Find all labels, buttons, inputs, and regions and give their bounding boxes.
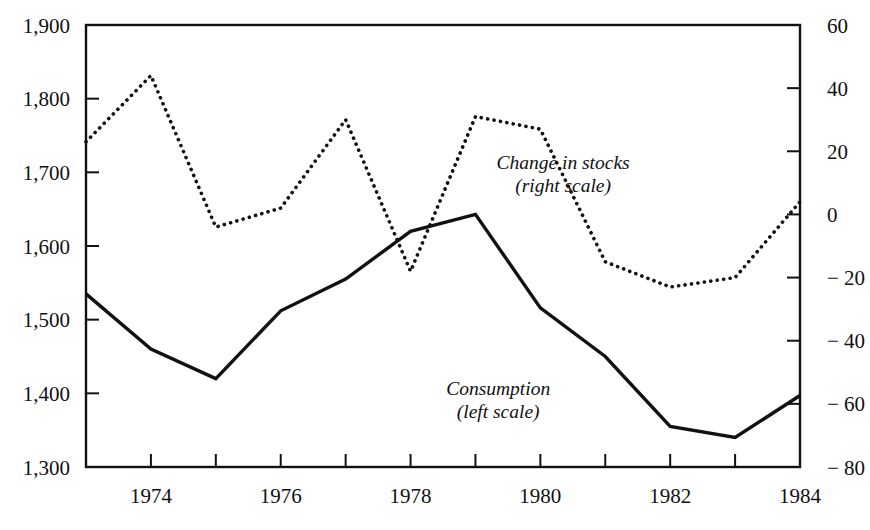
annotation-line-2: (right scale): [515, 175, 611, 197]
left-axis-tick-label: 1,300: [23, 456, 70, 480]
x-axis-tick-label: 1978: [390, 484, 432, 508]
annotation-line-1: Consumption: [446, 378, 550, 399]
left-axis-tick-label: 1,900: [23, 14, 70, 38]
left-axis-tick-label: 1,500: [23, 308, 70, 332]
right-axis-tick-label: 0: [827, 203, 838, 227]
right-axis-tick-label: 20: [827, 140, 848, 164]
dual-axis-line-chart: 1,3001,4001,5001,6001,7001,8001,900 − 80…: [0, 0, 870, 530]
left-axis-tick-label: 1,800: [23, 87, 70, 111]
annotation-line-2: (left scale): [457, 401, 540, 423]
x-axis-tick-label: 1982: [649, 484, 691, 508]
x-axis-tick-label: 1976: [260, 484, 302, 508]
annotation-line-1: Change in stocks: [496, 152, 629, 173]
right-axis-tick-label: − 40: [827, 329, 865, 353]
chart-background: [0, 0, 870, 530]
right-axis-tick-label: − 60: [827, 392, 865, 416]
left-axis-tick-label: 1,400: [23, 382, 70, 406]
right-axis-tick-label: 40: [827, 77, 848, 101]
left-axis-tick-label: 1,700: [23, 161, 70, 185]
x-axis-tick-label: 1984: [779, 484, 822, 508]
right-axis-tick-label: − 20: [827, 266, 865, 290]
annotation-stocks: Change in stocks(right scale): [496, 152, 629, 197]
right-axis-tick-label: − 80: [827, 456, 865, 480]
annotation-consumption: Consumption(left scale): [446, 378, 550, 423]
x-axis-tick-label: 1974: [130, 484, 173, 508]
chart-figure: 1,3001,4001,5001,6001,7001,8001,900 − 80…: [0, 0, 870, 530]
right-axis-tick-label: 60: [827, 14, 848, 38]
left-axis-tick-label: 1,600: [23, 235, 70, 259]
x-axis-tick-label: 1980: [519, 484, 561, 508]
